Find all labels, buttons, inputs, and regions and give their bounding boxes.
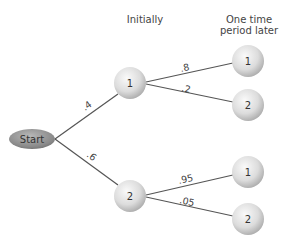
prob-start-2: .6 — [85, 149, 99, 163]
prob-2-2: .05 — [179, 194, 196, 208]
svg-text:1: 1 — [127, 78, 133, 89]
edge-start-to-2 — [55, 139, 118, 185]
svg-text:2: 2 — [245, 100, 251, 111]
start-label: Start — [20, 134, 45, 145]
edge-1-to-1 — [146, 63, 233, 82]
svg-text:1: 1 — [245, 167, 251, 178]
svg-text:2: 2 — [127, 191, 133, 202]
later-node-1-2: 2 — [232, 89, 264, 121]
later-node-2-2: 2 — [232, 203, 264, 235]
prob-1-1: .8 — [179, 61, 190, 74]
prob-2-1: .95 — [177, 172, 194, 186]
initial-node-2: 2 — [114, 180, 146, 212]
later-node-1-1: 1 — [232, 45, 264, 77]
start-node: Start — [9, 129, 55, 149]
svg-text:2: 2 — [245, 214, 251, 225]
prob-start-1: .4 — [80, 98, 94, 112]
svg-text:1: 1 — [245, 56, 251, 67]
later-node-2-1: 1 — [232, 156, 264, 188]
initial-node-1: 1 — [114, 67, 146, 99]
probability-tree: .4 .6 .8 .2 .95 .05 Start 1 2 1 2 1 2 — [0, 0, 292, 248]
